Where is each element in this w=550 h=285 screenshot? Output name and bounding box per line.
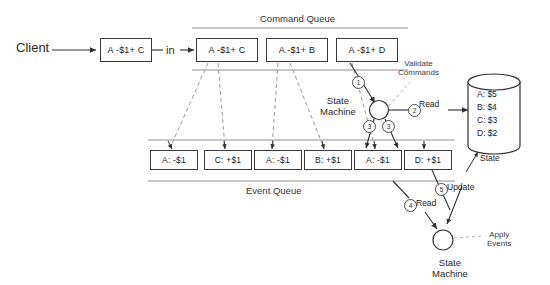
- command-queue-item: A -$1+ B: [266, 38, 328, 62]
- client-command-box: A -$1+ C: [100, 38, 152, 62]
- apply-line-2: Events: [487, 239, 511, 248]
- bottom-state-machine-label: State Machine: [432, 258, 468, 280]
- event-queue-item: A: -$1: [150, 150, 198, 170]
- validate-line-1: Validate: [404, 59, 432, 68]
- validate-callout-line: [389, 82, 410, 106]
- step4-read-arrow: [425, 212, 437, 229]
- step-5-update-label: Update: [447, 183, 474, 193]
- event-queue-item: A: -$1: [254, 150, 302, 170]
- validate-line-2: Commands: [398, 68, 439, 77]
- validate-commands-annotation: Validate Commands: [398, 59, 439, 77]
- in-label: in: [166, 44, 175, 57]
- state-database-label: State: [480, 154, 500, 164]
- apply-events-callout-line: [454, 236, 484, 238]
- top-sm-line-2: Machine: [320, 106, 356, 117]
- evt5-arrow: [374, 141, 375, 149]
- step-3-marker-left: 3: [363, 120, 376, 133]
- event-queue-item: A: -$1: [354, 150, 402, 170]
- state-database-rows: A: $5 B: $4 C: $3 D: $2: [477, 88, 497, 140]
- step-1-marker: 1: [352, 76, 365, 89]
- event-queue-item: B: +$1: [304, 150, 352, 170]
- bottom-sm-line-2: Machine: [432, 268, 468, 279]
- evt4-arrow: [322, 141, 324, 149]
- db-state-pointer: [466, 152, 478, 172]
- step-4-read-label: Read: [416, 199, 436, 209]
- db-row: D: $2: [477, 127, 497, 140]
- db-row: B: $4: [477, 101, 497, 114]
- step-3-marker-right: 3: [382, 120, 395, 133]
- top-state-machine-label: State Machine: [320, 96, 356, 118]
- command-queue-item: A -$1+ D: [336, 38, 398, 62]
- command-queue-title: Command Queue: [260, 14, 335, 25]
- db-row: C: $3: [477, 114, 497, 127]
- dashed-cmd1-to-evt1: [170, 63, 208, 148]
- bottom-sm-line-1: State: [439, 257, 461, 268]
- dashed-cmd2-to-evt3: [272, 63, 278, 148]
- apply-line-1: Apply: [489, 230, 509, 239]
- event-queue-item: C: +$1: [204, 150, 252, 170]
- event-queue-title: Event Queue: [246, 186, 301, 197]
- top-state-machine-node: [370, 101, 389, 120]
- event-queue-item: D: +$1: [404, 150, 452, 170]
- db-row: A: $5: [477, 88, 497, 101]
- step4-read-line: [393, 181, 409, 198]
- command-queue-item: A -$1+ C: [196, 38, 258, 62]
- diagram-canvas: Client A -$1+ C in Command Queue A -$1+ …: [0, 0, 550, 285]
- dashed-cmd2-to-evt4: [290, 63, 324, 148]
- client-label: Client: [16, 41, 49, 56]
- step-2-read-label: Read: [419, 100, 439, 110]
- dashed-cmd1-to-evt2: [218, 63, 225, 148]
- bottom-state-machine-node: [433, 230, 453, 250]
- apply-events-annotation: Apply Events: [487, 230, 511, 248]
- top-sm-line-1: State: [327, 95, 349, 106]
